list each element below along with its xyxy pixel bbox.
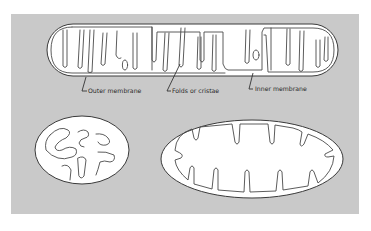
small-oval-mitochondrion <box>35 116 129 184</box>
large-oval-mitochondrion <box>161 120 343 198</box>
leader-outer-membrane <box>82 77 87 91</box>
label-inner-membrane: Inner membrane <box>255 85 307 92</box>
label-folds-or-cristae: Folds or cristae <box>172 87 219 94</box>
outer-membrane-shape <box>161 120 343 198</box>
elongated-mitochondrion <box>47 24 338 76</box>
outer-membrane-shape <box>35 116 129 184</box>
label-outer-membrane: Outer membrane <box>88 87 141 94</box>
mitochondria-diagram <box>0 0 371 231</box>
